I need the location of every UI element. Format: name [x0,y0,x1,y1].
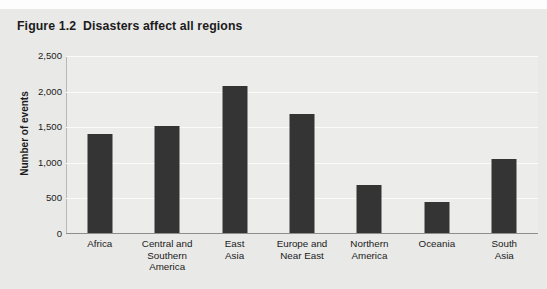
bar-slot [133,56,200,234]
bar-slot [471,56,538,234]
bar [424,202,449,234]
x-axis-labels: AfricaCentral and Southern AmericaEast A… [66,238,538,286]
bar-slot [66,56,133,234]
x-axis-line [66,233,538,234]
x-axis-tick-label: East Asia [196,238,274,261]
bar-slot [403,56,470,234]
plot-area [66,56,538,234]
bar-slot [201,56,268,234]
x-axis-tick-label: Central and Southern America [128,238,206,273]
bar [222,86,247,234]
bar [492,159,517,234]
y-axis-ticks: 05001,0001,5002,0002,500 [0,0,62,289]
x-axis-tick-label: Oceania [398,238,476,250]
y-axis-tick-label: 0 [4,229,62,239]
bar-slot [336,56,403,234]
x-axis-tick-label: Africa [61,238,139,250]
y-axis-tick-label: 1,000 [4,158,62,168]
x-axis-tick-label: Northern America [330,238,408,261]
top-white-band [0,0,547,9]
bar [155,126,180,234]
y-axis-tick-label: 2,500 [4,51,62,61]
bar-slot [268,56,335,234]
bar [357,185,382,234]
y-axis-tick-label: 2,000 [4,87,62,97]
bar [87,134,112,234]
y-axis-title: Number of events [19,74,30,194]
bar-series [66,56,538,234]
figure-panel: Figure 1.2 Disasters affect all regions … [0,0,547,289]
x-axis-tick-label: South Asia [465,238,543,261]
y-axis-tick-label: 1,500 [4,122,62,132]
y-axis-tick-label: 500 [4,193,62,203]
x-axis-tick-label: Europe and Near East [263,238,341,261]
bar [289,114,314,234]
